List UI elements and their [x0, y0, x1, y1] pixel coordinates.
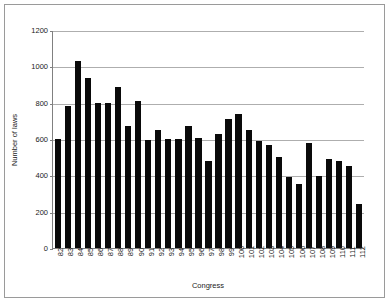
x-tick-slot: 95 — [183, 251, 193, 277]
bar-slot — [173, 31, 183, 248]
x-tick-slot: 99 — [223, 251, 233, 277]
x-tick-slot: 110 — [334, 251, 344, 277]
y-axis-tick-label: 1200 — [31, 27, 48, 35]
bar — [266, 145, 272, 248]
x-tick-slot: 83 — [62, 251, 72, 277]
bar — [155, 130, 161, 248]
bar-slot — [183, 31, 193, 248]
x-axis-tick-labels: 8283848586878889909192939495969798991001… — [52, 251, 364, 277]
x-tick-slot: 101 — [243, 251, 253, 277]
x-tick-slot: 109 — [324, 251, 334, 277]
bar — [276, 157, 282, 248]
bar — [286, 177, 292, 248]
bar-slot — [113, 31, 123, 248]
bar-slot — [83, 31, 93, 248]
bar-slot — [354, 31, 364, 248]
bar — [65, 106, 71, 248]
y-axis-tick-label: 400 — [35, 173, 48, 181]
bar — [356, 204, 362, 248]
bar — [115, 87, 121, 248]
bar — [256, 141, 262, 248]
x-tick-slot: 90 — [133, 251, 143, 277]
bar — [346, 166, 352, 248]
x-axis-title: Congress — [52, 281, 364, 290]
bar — [75, 61, 81, 248]
bar — [336, 161, 342, 248]
bar-slot — [224, 31, 234, 248]
bar-slot — [254, 31, 264, 248]
bar-slot — [203, 31, 213, 248]
bar — [306, 143, 312, 248]
bar — [135, 101, 141, 248]
bar — [296, 184, 302, 248]
y-axis-tick-label: 600 — [35, 136, 48, 144]
bar — [55, 139, 61, 248]
bar — [105, 103, 111, 248]
x-tick-slot: 92 — [153, 251, 163, 277]
bar — [85, 78, 91, 248]
bar — [145, 140, 151, 248]
x-tick-slot: 102 — [253, 251, 263, 277]
bar — [215, 134, 221, 248]
bar-slot — [264, 31, 274, 248]
x-tick-slot: 98 — [213, 251, 223, 277]
bar — [205, 161, 211, 248]
x-tick-slot: 96 — [193, 251, 203, 277]
bar — [235, 114, 241, 248]
bar — [326, 159, 332, 248]
bar-slot — [143, 31, 153, 248]
bar-slot — [123, 31, 133, 248]
x-tick-slot: 112 — [354, 251, 364, 277]
bar — [225, 119, 231, 248]
bar-slot — [63, 31, 73, 248]
x-tick-slot: 104 — [273, 251, 283, 277]
x-tick-slot: 106 — [294, 251, 304, 277]
x-tick-slot: 105 — [283, 251, 293, 277]
x-tick-slot: 94 — [173, 251, 183, 277]
bar-slot — [244, 31, 254, 248]
x-tick-slot: 97 — [203, 251, 213, 277]
x-tick-slot: 86 — [92, 251, 102, 277]
x-tick-slot: 89 — [122, 251, 132, 277]
bar-slot — [314, 31, 324, 248]
bar-slot — [334, 31, 344, 248]
bar — [185, 126, 191, 248]
bar — [165, 139, 171, 248]
x-tick-slot: 87 — [102, 251, 112, 277]
x-tick-slot: 103 — [263, 251, 273, 277]
y-axis-tick-label: 200 — [35, 209, 48, 217]
bar-slot — [193, 31, 203, 248]
bar-slot — [274, 31, 284, 248]
chart-figure: 020040060080010001200 828384858687888990… — [0, 0, 390, 303]
x-axis-tick-label: 112 — [359, 246, 367, 258]
x-tick-slot: 100 — [233, 251, 243, 277]
bar-slot — [304, 31, 314, 248]
y-axis-tick-label: 800 — [35, 100, 48, 108]
bar-slot — [294, 31, 304, 248]
x-tick-slot: 84 — [72, 251, 82, 277]
bar-slot — [284, 31, 294, 248]
bar — [246, 130, 252, 248]
bar-slot — [133, 31, 143, 248]
x-tick-slot: 88 — [112, 251, 122, 277]
bar — [95, 103, 101, 248]
x-tick-slot: 111 — [344, 251, 354, 277]
x-tick-slot: 85 — [82, 251, 92, 277]
bar-series — [53, 31, 364, 248]
x-tick-slot: 107 — [304, 251, 314, 277]
y-axis-tick-mark — [50, 249, 53, 250]
y-axis-tick-label: 1000 — [31, 64, 48, 72]
y-axis-tick-label: 0 — [44, 245, 48, 253]
bar — [195, 138, 201, 248]
bar-slot — [214, 31, 224, 248]
bar — [175, 139, 181, 248]
bar — [125, 126, 131, 248]
bar-slot — [53, 31, 63, 248]
x-tick-slot: 93 — [163, 251, 173, 277]
bar-slot — [153, 31, 163, 248]
x-tick-slot: 108 — [314, 251, 324, 277]
bar-slot — [93, 31, 103, 248]
bar-slot — [163, 31, 173, 248]
bar — [316, 176, 322, 248]
bar-slot — [344, 31, 354, 248]
